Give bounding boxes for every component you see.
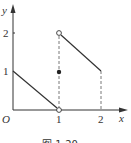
origin-label: O	[2, 113, 10, 125]
x-tick-2-label: 2	[98, 113, 104, 125]
x-tick-1-label: 1	[56, 113, 62, 125]
x-axis-label: x	[118, 112, 124, 124]
y-tick-1-label: 1	[3, 65, 9, 77]
segment-1	[13, 71, 57, 108]
piecewise-function-graph: y x O 1 2 1 2 图 1-20	[0, 0, 131, 143]
open-point-1-0	[57, 108, 62, 113]
y-axis-arrow-icon	[11, 4, 16, 13]
figure-caption: 图 1-20	[42, 139, 78, 143]
y-tick-2-label: 2	[3, 27, 9, 39]
filled-point-1-1	[57, 70, 61, 74]
open-point-1-2	[57, 31, 62, 36]
segment-2	[61, 35, 101, 71]
y-axis-label: y	[1, 4, 7, 16]
